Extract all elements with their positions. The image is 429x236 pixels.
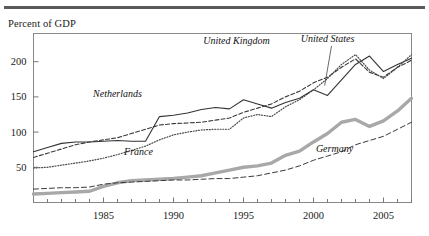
x-tick-label: 2000 <box>303 210 324 221</box>
series-label-netherlands: Netherlands <box>92 88 142 99</box>
y-tick-label: 150 <box>11 91 27 102</box>
y-tick-label: 100 <box>11 127 27 138</box>
series-label-germany: Germany <box>316 143 354 154</box>
series-labels-group: NetherlandsUnited KingdomUnited StatesFr… <box>92 33 354 157</box>
series-label-united-states: United States <box>301 33 355 44</box>
series-line-france <box>34 98 412 194</box>
series-label-france: France <box>123 146 153 157</box>
y-tick-labels: 50100150200 <box>11 56 27 173</box>
x-tick-label: 2005 <box>373 210 394 221</box>
y-tick-label: 200 <box>11 56 27 67</box>
line-chart: NetherlandsUnited KingdomUnited StatesFr… <box>0 0 429 236</box>
x-tick-label: 1995 <box>233 210 254 221</box>
axis-ticks <box>34 62 412 203</box>
data-series-group <box>34 55 412 194</box>
series-line-netherlands <box>34 56 412 152</box>
y-tick-label: 50 <box>16 162 27 173</box>
x-tick-label: 1990 <box>163 210 184 221</box>
series-line-germany <box>34 122 412 189</box>
x-tick-label: 1985 <box>93 210 114 221</box>
x-tick-labels: 19851990199520002005 <box>93 210 394 221</box>
label-leader-line <box>325 46 332 86</box>
chart-plot-area: NetherlandsUnited KingdomUnited StatesFr… <box>0 0 429 236</box>
series-line-united-kingdom <box>34 55 412 168</box>
series-label-united-kingdom: United Kingdom <box>203 35 269 46</box>
